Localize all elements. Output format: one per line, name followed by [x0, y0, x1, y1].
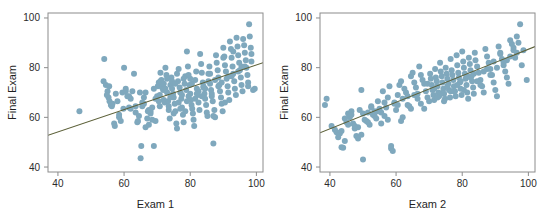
- data-point: [187, 76, 193, 82]
- data-point: [491, 80, 497, 86]
- data-point: [167, 94, 173, 100]
- data-point: [465, 96, 471, 102]
- data-point: [157, 70, 163, 76]
- data-point: [123, 88, 129, 94]
- data-point: [181, 119, 187, 125]
- x-tick-label: 60: [119, 178, 131, 189]
- data-point: [209, 91, 215, 97]
- data-point: [190, 111, 196, 117]
- data-point: [449, 72, 455, 78]
- data-point: [400, 114, 406, 120]
- data-point: [204, 113, 210, 119]
- data-point: [342, 138, 348, 144]
- data-point: [443, 65, 449, 71]
- data-point: [388, 143, 394, 149]
- data-point: [225, 83, 231, 89]
- data-point: [432, 66, 438, 72]
- data-point: [220, 108, 226, 114]
- y-tick-label: 100: [23, 12, 40, 23]
- data-point: [126, 93, 132, 99]
- data-point: [203, 102, 209, 108]
- data-point: [225, 90, 231, 96]
- data-point: [191, 123, 197, 129]
- y-tick-label: 40: [301, 162, 313, 173]
- data-point: [238, 75, 244, 81]
- y-tick-label: 100: [295, 12, 312, 23]
- data-point: [360, 157, 366, 163]
- panel-exam-2: 406080100406080100Exam 2Final Exam: [272, 0, 544, 218]
- data-point: [438, 68, 444, 74]
- data-point: [246, 21, 252, 27]
- data-point: [230, 49, 236, 55]
- data-point: [467, 61, 473, 67]
- data-point: [514, 34, 520, 40]
- data-point: [416, 63, 422, 69]
- data-point: [179, 92, 185, 98]
- data-point: [248, 45, 254, 51]
- data-point: [131, 71, 137, 77]
- data-point: [240, 36, 246, 42]
- data-point: [380, 88, 386, 94]
- data-point: [177, 106, 183, 112]
- data-point: [101, 78, 107, 84]
- y-tick-label: 80: [301, 62, 313, 73]
- data-point: [474, 78, 480, 84]
- data-point: [494, 93, 500, 99]
- data-point: [184, 49, 190, 55]
- data-point: [454, 62, 460, 68]
- data-point: [129, 88, 135, 94]
- data-point: [222, 62, 228, 68]
- data-layer: [320, 21, 535, 162]
- data-point: [118, 118, 124, 124]
- x-tick-label: 100: [520, 178, 537, 189]
- data-point: [482, 46, 488, 52]
- data-point: [193, 68, 199, 74]
- data-point: [437, 60, 443, 66]
- data-point: [167, 116, 173, 122]
- data-point: [136, 113, 142, 119]
- data-point: [454, 82, 460, 88]
- data-point: [375, 98, 381, 104]
- data-point: [460, 58, 466, 64]
- data-point: [116, 112, 122, 118]
- data-point: [472, 57, 478, 63]
- data-point: [146, 122, 152, 128]
- data-point: [421, 106, 427, 112]
- data-point: [230, 63, 236, 69]
- data-point: [339, 128, 345, 134]
- data-point: [395, 92, 401, 98]
- x-tick-label: 40: [52, 178, 64, 189]
- data-point: [245, 83, 251, 89]
- data-point: [352, 123, 358, 129]
- data-point: [466, 55, 472, 61]
- data-layer: [48, 21, 263, 161]
- data-point: [470, 85, 476, 91]
- data-point: [481, 90, 487, 96]
- data-point: [194, 91, 200, 97]
- data-point: [484, 53, 490, 59]
- data-point: [207, 71, 213, 77]
- data-point: [199, 70, 205, 76]
- data-point: [200, 83, 206, 89]
- data-point: [218, 94, 224, 100]
- data-point: [461, 65, 467, 71]
- data-point: [471, 91, 477, 97]
- data-point: [145, 108, 151, 114]
- data-point: [213, 52, 219, 58]
- data-point: [196, 107, 202, 113]
- data-point: [239, 82, 245, 88]
- data-point: [185, 63, 191, 69]
- panel-exam-1: 406080100406080100Exam 1Final Exam: [0, 0, 272, 218]
- data-point: [198, 61, 204, 67]
- data-point: [454, 52, 460, 58]
- data-point: [348, 112, 354, 118]
- data-point: [468, 75, 474, 81]
- y-tick-label: 40: [29, 162, 41, 173]
- x-tick-label: 40: [324, 178, 336, 189]
- data-point: [220, 45, 226, 51]
- x-axis-title: Exam 2: [409, 198, 446, 210]
- x-tick-label: 60: [391, 178, 403, 189]
- data-point: [210, 113, 216, 119]
- data-point: [191, 117, 197, 123]
- data-point: [481, 68, 487, 74]
